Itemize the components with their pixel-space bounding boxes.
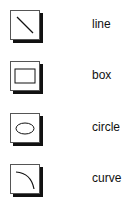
tool-row-circle: circle	[0, 113, 132, 153]
box-icon	[11, 62, 39, 90]
line-icon	[11, 11, 39, 39]
circle-icon	[11, 114, 39, 142]
curve-tool-label: curve	[92, 171, 121, 185]
circle-tool-label: circle	[92, 120, 120, 134]
tool-row-line: line	[0, 10, 132, 50]
tool-row-box: box	[0, 61, 132, 101]
box-tool-button[interactable]	[10, 61, 40, 91]
curve-tool-button[interactable]	[10, 164, 40, 194]
box-tool-label: box	[92, 68, 111, 82]
line-tool-label: line	[92, 17, 111, 31]
circle-tool-button[interactable]	[10, 113, 40, 143]
line-tool-button[interactable]	[10, 10, 40, 40]
curve-icon	[11, 165, 39, 193]
tool-row-curve: curve	[0, 164, 132, 204]
